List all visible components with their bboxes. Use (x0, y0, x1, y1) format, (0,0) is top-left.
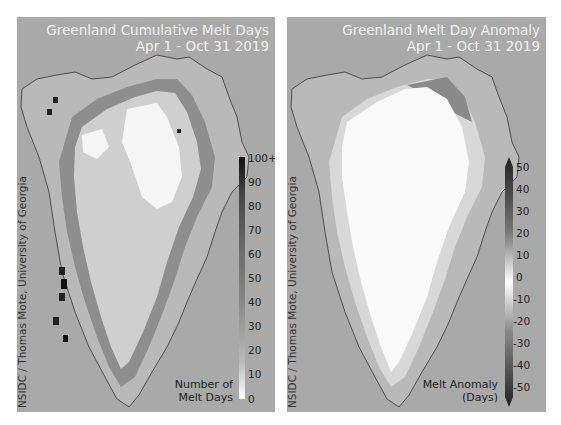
map-title: Greenland Cumulative Melt Days Apr 1 - O… (46, 22, 269, 54)
tick-0: 0 (516, 271, 523, 283)
credit-text: NSIDC / Thomas Mote, University of Georg… (287, 176, 298, 408)
tick-30: 30 (248, 320, 261, 332)
legend-line-2: (Days) (423, 391, 498, 404)
tick-minus-30: -30 (513, 337, 530, 349)
tick-10: 10 (516, 249, 529, 261)
tick-60: 60 (248, 248, 261, 260)
tick-40: 40 (248, 296, 261, 308)
tick-50: 50 (516, 161, 529, 173)
colorbar-label: Number of Melt Days (175, 378, 233, 404)
tick-30: 30 (516, 205, 529, 217)
tick-100: 100+ (248, 152, 275, 164)
tick-90: 90 (248, 176, 261, 188)
title-date-range: Apr 1 - Oct 31 2019 (342, 38, 540, 54)
tick-minus-40: -40 (513, 359, 530, 371)
tick-20: 20 (516, 227, 529, 239)
tick-20: 20 (248, 344, 261, 356)
tick-10: 10 (248, 368, 261, 380)
map-title: Greenland Melt Day Anomaly Apr 1 - Oct 3… (342, 22, 540, 54)
cumulative-melt-days-map: Greenland Cumulative Melt Days Apr 1 - O… (17, 17, 275, 412)
tick-80: 80 (248, 200, 261, 212)
melt-days-colorbar (239, 157, 245, 399)
anomaly-colorbar (505, 157, 513, 407)
tick-50: 50 (248, 272, 261, 284)
legend-line-1: Melt Anomaly (423, 378, 498, 391)
legend-line-1: Number of (175, 378, 233, 391)
title-date-range: Apr 1 - Oct 31 2019 (46, 38, 269, 54)
tick-70: 70 (248, 224, 261, 236)
credit-text: NSIDC / Thomas Mote, University of Georg… (17, 176, 28, 408)
legend-line-2: Melt Days (175, 391, 233, 404)
greenland-melt-days-map-graphic (17, 17, 275, 412)
colorbar-label: Melt Anomaly (Days) (423, 378, 498, 404)
title-line-1: Greenland Cumulative Melt Days (46, 22, 269, 38)
tick-0: 0 (248, 393, 255, 405)
tick-minus-10: -10 (513, 293, 530, 305)
tick-minus-50: -50 (513, 381, 530, 393)
tick-40: 40 (516, 183, 529, 195)
melt-day-anomaly-map: Greenland Melt Day Anomaly Apr 1 - Oct 3… (287, 17, 546, 412)
tick-minus-20: -20 (513, 315, 530, 327)
title-line-1: Greenland Melt Day Anomaly (342, 22, 540, 38)
